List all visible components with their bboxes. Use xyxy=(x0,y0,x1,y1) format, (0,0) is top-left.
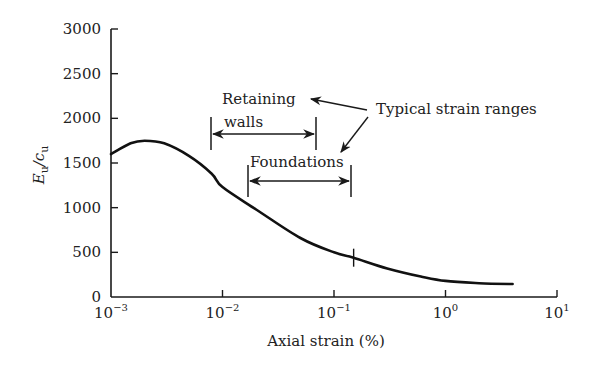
label-retaining: Retaining xyxy=(222,90,296,108)
x-tick-label: 100 xyxy=(433,302,458,322)
label-walls: walls xyxy=(224,113,263,131)
y-tick-label: 1000 xyxy=(63,199,101,217)
y-tick-label: 500 xyxy=(72,243,101,261)
x-ticks: 10−310−210−1100101 xyxy=(94,290,570,322)
pointer-arrows xyxy=(311,99,368,152)
x-axis-title: Axial strain (%) xyxy=(266,332,385,350)
svg-text:Eu/cu: Eu/cu xyxy=(30,146,51,186)
label-typical-strain-ranges: Typical strain ranges xyxy=(376,100,537,118)
y-tick-label: 1500 xyxy=(63,154,101,172)
x-tick-label: 10−2 xyxy=(206,302,240,322)
y-axis-title: Eu/cu xyxy=(30,146,51,186)
x-tick-label: 10−3 xyxy=(94,302,128,322)
chart: 050010001500200025003000 10−310−210−1100… xyxy=(0,0,593,368)
label-foundations: Foundations xyxy=(250,153,344,171)
y-tick-label: 3000 xyxy=(63,20,101,38)
y-ticks: 050010001500200025003000 xyxy=(63,20,118,306)
x-tick-label: 10−1 xyxy=(317,302,351,322)
y-tick-label: 2500 xyxy=(63,65,101,83)
y-tick-label: 2000 xyxy=(63,109,101,127)
x-tick-label: 101 xyxy=(544,302,569,322)
